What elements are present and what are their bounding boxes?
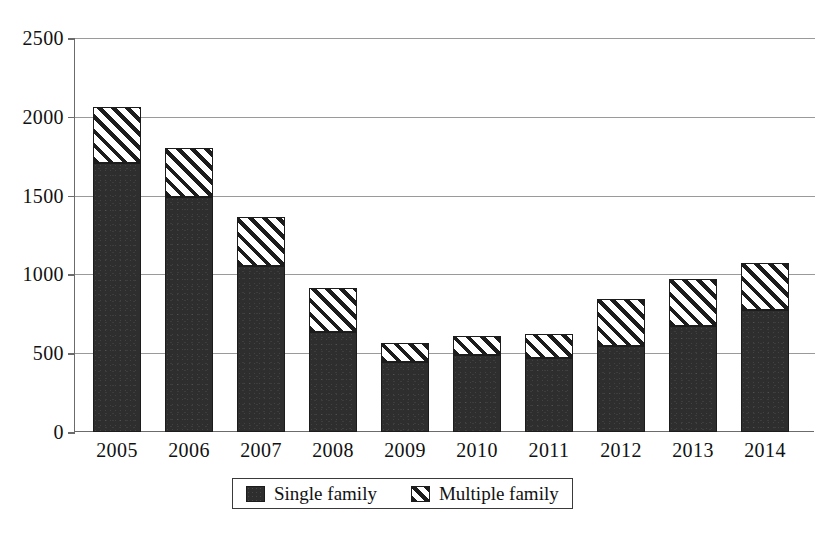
x-tick-label-2012: 2012 [581,440,661,460]
bar-group-2008 [309,288,357,432]
bar-group-2007 [237,217,285,432]
y-tick-label: 2500 [22,28,64,48]
legend-item-single-family: Single family [246,484,377,503]
bar-segment-single-family [741,310,789,432]
bar-segment-multiple-family [597,299,645,346]
x-tick-label-2005: 2005 [77,440,157,460]
stacked-bar-chart: 2500 2000 1500 1000 500 0 [0,0,837,541]
bar-group-2014 [741,263,789,432]
x-tick-label-2011: 2011 [509,440,589,460]
bar-group-2013 [669,279,717,432]
bar-segment-multiple-family [237,217,285,266]
x-tick-label-2013: 2013 [653,440,733,460]
bar-segment-single-family [669,326,717,432]
x-tick-label-2006: 2006 [149,440,229,460]
solid-dark-swatch-icon [246,486,265,502]
bar-segment-multiple-family [165,148,213,197]
bar-group-2012 [597,299,645,432]
x-tick-label-2007: 2007 [221,440,301,460]
bars-layer [74,38,814,432]
bar-group-2011 [525,334,573,432]
bar-segment-single-family [597,346,645,432]
bar-segment-multiple-family [741,263,789,310]
bar-segment-multiple-family [453,336,501,355]
y-tick-label: 500 [33,343,64,363]
hatched-swatch-icon [411,486,430,502]
bar-segment-single-family [309,332,357,432]
legend-label: Multiple family [439,484,559,503]
bar-segment-single-family [93,163,141,432]
y-tick-label: 2000 [22,107,64,127]
bar-group-2006 [165,148,213,432]
bar-group-2009 [381,343,429,432]
y-tick-label: 0 [54,422,64,442]
y-tick-label: 1500 [22,186,64,206]
bar-segment-multiple-family [381,343,429,362]
bar-group-2005 [93,107,141,432]
x-tick-label-2014: 2014 [725,440,805,460]
y-tick-label: 1000 [22,264,64,284]
bar-group-2010 [453,336,501,432]
bar-segment-multiple-family [93,107,141,163]
bar-segment-single-family [381,362,429,432]
x-axis-labels: 2005 2006 2007 2008 2009 2010 2011 2012 … [74,440,814,470]
chart-legend: Single family Multiple family [232,478,573,509]
bar-segment-single-family [165,197,213,432]
bar-segment-single-family [237,266,285,432]
x-tick-label-2010: 2010 [437,440,517,460]
tick-mark [68,432,75,434]
x-tick-label-2008: 2008 [293,440,373,460]
legend-label: Single family [274,484,377,503]
bar-segment-single-family [453,355,501,432]
bar-segment-multiple-family [525,334,573,358]
bar-segment-single-family [525,358,573,432]
x-tick-label-2009: 2009 [365,440,445,460]
legend-item-multiple-family: Multiple family [411,484,559,503]
bar-segment-multiple-family [309,288,357,332]
bar-segment-multiple-family [669,279,717,326]
